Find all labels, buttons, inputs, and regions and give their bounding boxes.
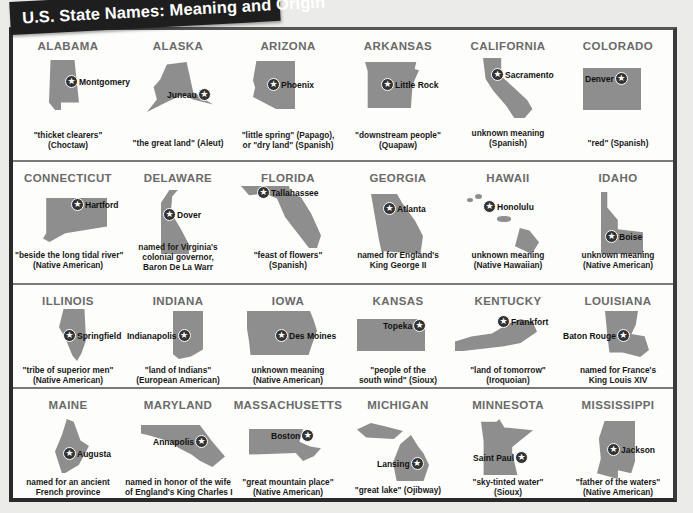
state-map-minnesota: Saint Paul★ — [453, 417, 563, 483]
capital-name: Des Moines — [289, 331, 336, 341]
name-meaning: "red" (Spanish) — [563, 138, 673, 148]
state-name: ILLINOIS — [13, 295, 123, 307]
state-card-massachusetts: MASSACHUSETTS Boston★ "great mountain pl… — [233, 389, 343, 501]
capital-name: Sacramento — [505, 70, 554, 80]
state-name: CALIFORNIA — [453, 40, 563, 52]
state-name: MARYLAND — [123, 399, 233, 411]
state-name: GEORGIA — [343, 172, 453, 184]
capital-star-icon: ★ — [267, 78, 280, 91]
capital-name: Frankfort — [511, 317, 548, 327]
state-row-4: MAINE ★Augusta named for an ancientFrenc… — [13, 389, 673, 501]
capital-star-icon: ★ — [515, 451, 528, 464]
capital-star-icon: ★ — [491, 68, 504, 81]
capital-name: Boise — [619, 232, 642, 242]
capital-star-icon: ★ — [301, 429, 314, 442]
state-card-iowa: IOWA ★Des Moines unknown meaning(Native … — [233, 285, 343, 387]
state-name: INDIANA — [123, 295, 233, 307]
capital-star-icon: ★ — [411, 457, 424, 470]
name-meaning: "land of Indians"(European American) — [123, 365, 233, 385]
capital-name: Indianapolis — [127, 331, 177, 341]
state-map-alabama: ★Montgomery — [13, 58, 123, 124]
name-meaning: "feast of flowers"(Spanish) — [233, 250, 343, 270]
name-meaning: named in honor of the wifeof England's K… — [123, 477, 233, 497]
state-card-kansas: KANSAS Topeka★ "people of thesouth wind"… — [343, 285, 453, 387]
state-card-mississippi: MISSISSIPPI ★Jackson "father of the wate… — [563, 389, 673, 501]
state-card-georgia: GEORGIA ★Atlanta named for England'sKing… — [343, 162, 453, 283]
capital-name: Hartford — [85, 200, 119, 210]
capital-star-icon: ★ — [605, 230, 618, 243]
state-map-florida: ★Tallahassee — [233, 184, 343, 250]
capital-star-icon: ★ — [163, 208, 176, 221]
name-meaning: "the great land" (Aleut) — [123, 138, 233, 148]
state-name: IDAHO — [563, 172, 673, 184]
capital-star-icon: ★ — [63, 447, 76, 460]
capital-name: Juneau — [167, 90, 197, 100]
capital-name: Denver — [585, 74, 614, 84]
state-map-michigan: Lansing★ — [343, 417, 453, 483]
capital-star-icon: ★ — [178, 329, 191, 342]
state-card-arizona: ARIZONA ★Phoenix "little spring" (Papago… — [233, 30, 343, 160]
state-name: MICHIGAN — [343, 399, 453, 411]
page-title: U.S. State Names: Meaning and Origin — [22, 0, 326, 27]
state-card-michigan: MICHIGAN Lansing★ "great lake" (Ojibway) — [343, 389, 453, 501]
capital-name: Annapolis — [153, 437, 194, 447]
capital-star-icon: ★ — [413, 319, 426, 332]
capital-name: Lansing — [377, 459, 410, 469]
state-grid-frame: ALABAMA ★Montgomery "thicket clearers"(C… — [9, 27, 677, 502]
state-card-alabama: ALABAMA ★Montgomery "thicket clearers"(C… — [13, 30, 123, 160]
capital-name: Atlanta — [397, 204, 426, 214]
state-name: FLORIDA — [233, 172, 343, 184]
capital-star-icon: ★ — [615, 72, 628, 85]
state-card-alaska: ALASKA Juneau★ "the great land" (Aleut) — [123, 30, 233, 160]
state-name: ALASKA — [123, 40, 233, 52]
state-map-arkansas: ★Little Rock — [343, 58, 453, 124]
state-name: DELAWARE — [123, 172, 233, 184]
capital-name: Topeka — [383, 321, 412, 331]
state-map-arizona: ★Phoenix — [233, 58, 343, 124]
capital-star-icon: ★ — [198, 88, 211, 101]
name-meaning: named for England'sKing George II — [343, 250, 453, 270]
state-card-idaho: IDAHO ★Boise unknown meaning(Native Amer… — [563, 162, 673, 283]
name-meaning: unknown meaning(Native American) — [233, 365, 343, 385]
state-name: MAINE — [13, 399, 123, 411]
name-meaning: "tribe of superior men"(Native American) — [13, 365, 123, 385]
state-map-massachusetts: Boston★ — [233, 417, 343, 483]
state-name: LOUISIANA — [563, 295, 673, 307]
capital-name: Augusta — [77, 449, 111, 459]
name-meaning: "little spring" (Papago),or "dry land" (… — [233, 130, 343, 150]
capital-name: Phoenix — [281, 80, 314, 90]
capital-star-icon: ★ — [63, 329, 76, 342]
state-name: CONNECTICUT — [13, 172, 123, 184]
name-meaning: named for Virginia'scolonial governor,Ba… — [123, 242, 233, 272]
name-meaning: "father of the waters"(Native American) — [563, 477, 673, 497]
state-card-delaware: DELAWARE ★Dover named for Virginia'scolo… — [123, 162, 233, 283]
capital-name: Baton Rouge — [563, 331, 616, 341]
state-map-maine: ★Augusta — [13, 417, 123, 483]
capital-star-icon: ★ — [381, 78, 394, 91]
name-meaning: "thicket clearers"(Choctaw) — [13, 130, 123, 150]
name-meaning: "beside the long tidal river"(Native Ame… — [13, 250, 123, 270]
name-meaning: unknown meaning(Spanish) — [453, 128, 563, 148]
state-card-indiana: INDIANA Indianapolis★ "land of Indians"(… — [123, 285, 233, 387]
state-name: MASSACHUSETTS — [233, 399, 343, 411]
state-map-mississippi: ★Jackson — [563, 417, 673, 483]
capital-star-icon: ★ — [617, 329, 630, 342]
state-row-2: CONNECTICUT ★Hartford "beside the long t… — [13, 162, 673, 285]
state-card-colorado: COLORADO Denver★ "red" (Spanish) — [563, 30, 673, 160]
name-meaning: "great lake" (Ojibway) — [343, 485, 453, 495]
state-card-maine: MAINE ★Augusta named for an ancientFrenc… — [13, 389, 123, 501]
capital-star-icon: ★ — [195, 435, 208, 448]
state-name: COLORADO — [563, 40, 673, 52]
capital-star-icon: ★ — [483, 200, 496, 213]
state-map-alaska: Juneau★ — [123, 58, 233, 124]
state-name: MISSISSIPPI — [563, 399, 673, 411]
capital-star-icon: ★ — [275, 329, 288, 342]
capital-star-icon: ★ — [497, 315, 510, 328]
state-map-maryland: Annapolis★ — [123, 417, 233, 483]
capital-star-icon: ★ — [65, 75, 78, 88]
name-meaning: named for an ancientFrench province — [13, 477, 123, 497]
state-name: KENTUCKY — [453, 295, 563, 307]
state-map-colorado: Denver★ — [563, 58, 673, 124]
capital-name: Boston — [271, 431, 300, 441]
state-card-arkansas: ARKANSAS ★Little Rock "downstream people… — [343, 30, 453, 160]
